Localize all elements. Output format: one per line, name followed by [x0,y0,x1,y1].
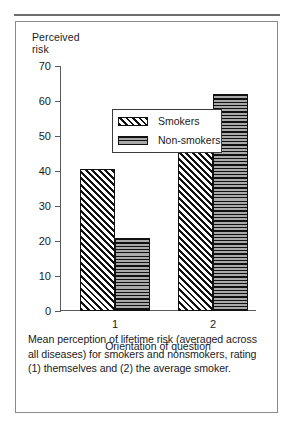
y-axis-label-line-2: risk [32,43,80,55]
legend-swatch-non-smokers [118,136,148,145]
y-tick-label: 10 [39,270,51,282]
bar-group-container [60,66,256,311]
y-axis-label: Perceived risk [32,31,80,55]
y-tick-label: 40 [39,165,51,177]
y-tick-label: 20 [39,235,51,247]
plot-area: 010203040506070 12 Orientation of questi… [60,66,256,311]
legend-label-non-smokers: Non-smokers [158,134,220,146]
legend-item-non-smokers: Non-smokers [118,133,216,147]
y-tick-mark [55,311,61,312]
x-category-label: 2 [210,318,216,330]
x-category-label: 1 [112,318,118,330]
figure-frame: Perceived risk 010203040506070 12 Orient… [15,21,278,413]
legend-swatch-smokers [118,117,148,126]
bar [178,134,213,311]
y-tick-label: 0 [45,305,51,317]
y-tick-label: 60 [39,95,51,107]
figure-caption: Mean perception of lifetime risk (averag… [28,332,268,376]
chart-legend: Smokers Non-smokers [112,109,222,153]
bar [80,169,115,311]
y-tick-label: 70 [39,60,51,72]
legend-label-smokers: Smokers [158,115,199,127]
y-tick-label: 30 [39,200,51,212]
legend-item-smokers: Smokers [118,114,216,128]
y-axis-label-line-1: Perceived [32,31,80,43]
top-divider-rule [14,14,280,16]
bar [115,238,150,312]
y-tick-label: 50 [39,130,51,142]
